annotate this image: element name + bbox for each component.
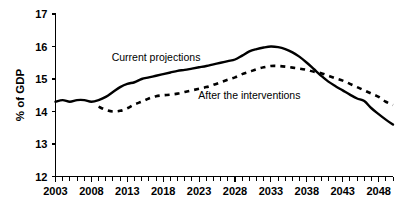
x-axis-group: 2003200820132018202320282033203820432048 (43, 177, 393, 197)
series-label-after-the-interventions: After the interventions (198, 89, 300, 101)
x-axis-minor-ticks (56, 177, 394, 182)
y-axis-title: % of GDP (14, 68, 26, 121)
series-group (56, 46, 394, 124)
x-tick-label: 2038 (295, 185, 319, 197)
y-tick-label: 12 (35, 171, 47, 183)
series-annotations: Current projectionsAfter the interventio… (112, 51, 301, 101)
x-tick-label: 2003 (43, 185, 67, 197)
x-tick-label: 2008 (79, 185, 103, 197)
x-axis-tick-labels: 2003200820132018202320282033203820432048 (43, 185, 391, 197)
x-tick-label: 2028 (223, 185, 247, 197)
y-tick-label: 15 (35, 73, 47, 85)
x-tick-label: 2013 (115, 185, 139, 197)
y-tick-label: 13 (35, 138, 47, 150)
series-line-current-projections (56, 46, 394, 124)
series-label-current-projections: Current projections (112, 51, 201, 63)
y-axis-tick-labels: 171615141312 (35, 8, 48, 183)
chart-container: 171615141312 % of GDP 200320082013201820… (0, 0, 417, 212)
x-tick-label: 2043 (330, 185, 354, 197)
y-tick-label: 14 (35, 106, 48, 118)
x-tick-label: 2048 (366, 185, 390, 197)
x-tick-label: 2033 (259, 185, 283, 197)
y-tick-label: 16 (35, 41, 47, 53)
line-chart: 171615141312 % of GDP 200320082013201820… (0, 0, 417, 212)
x-tick-label: 2023 (187, 185, 211, 197)
y-axis-group: 171615141312 % of GDP (14, 8, 56, 183)
y-tick-label: 17 (35, 8, 47, 20)
x-tick-label: 2018 (151, 185, 175, 197)
